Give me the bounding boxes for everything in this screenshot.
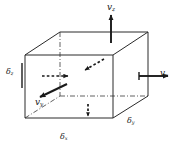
cube-hidden-edges [25, 32, 148, 118]
cube-edge-bottom-right-diagonal [113, 96, 148, 118]
depth-x-subscript: x [65, 135, 68, 141]
inflow-arrows [42, 59, 104, 116]
velocity-y-label: vy [35, 98, 43, 108]
control-volume-figure: vz vx vy δz δx δy [0, 0, 181, 152]
inflow-y-dashed-arrow [85, 59, 104, 70]
velocity-y-subscript: y [40, 101, 43, 107]
dimension-ticks [22, 63, 139, 88]
depth-z-subscript: z [11, 70, 14, 76]
cube-edge-top-right-diagonal [113, 32, 148, 55]
velocity-arrows [40, 15, 168, 97]
velocity-z-label: vz [107, 3, 115, 13]
velocity-y-arrow [40, 84, 67, 97]
depth-z-label: δz [6, 68, 13, 76]
velocity-x-label: vx [160, 69, 168, 79]
cube-edge-top-left-diagonal [25, 32, 60, 55]
control-volume-svg [0, 0, 181, 152]
depth-y-label: δy [127, 117, 135, 125]
velocity-z-subscript: z [112, 6, 115, 12]
depth-x-label: δx [60, 133, 68, 141]
cube-front-face [25, 55, 113, 118]
velocity-x-subscript: x [165, 72, 168, 78]
depth-y-subscript: y [132, 119, 135, 125]
cube-visible-edges [25, 32, 148, 118]
